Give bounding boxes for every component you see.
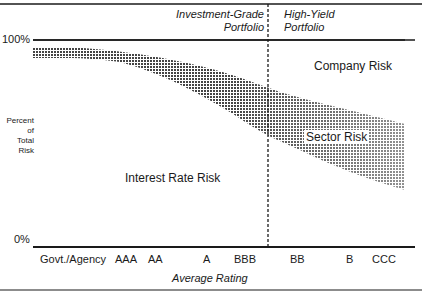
y-axis-title-line2: of bbox=[0, 126, 34, 136]
interest-rate-risk-label: Interest Rate Risk bbox=[125, 171, 220, 185]
high-yield-label: High-Yield Portfolio bbox=[284, 8, 335, 34]
x-tick-bb: BB bbox=[290, 253, 305, 265]
high-yield-line1: High-Yield bbox=[284, 8, 335, 21]
high-yield-line2: Portfolio bbox=[284, 21, 335, 34]
x-axis-title: Average Rating bbox=[172, 272, 248, 285]
investment-grade-line2: Portfolio bbox=[168, 21, 264, 34]
x-tick-aaa: AAA bbox=[115, 253, 137, 265]
x-tick-ccc: CCC bbox=[372, 253, 396, 265]
y-tick-100: 100% bbox=[2, 33, 30, 46]
chart-canvas bbox=[0, 0, 422, 292]
x-tick-aa: AA bbox=[148, 253, 163, 265]
sector-risk-label: Sector Risk bbox=[304, 130, 369, 144]
y-tick-0: 0% bbox=[14, 233, 30, 246]
y-axis-title-line4: Risk bbox=[0, 146, 34, 156]
company-risk-label: Company Risk bbox=[314, 59, 392, 73]
y-axis-title: Percent of Total Risk bbox=[0, 116, 34, 156]
x-tick-a: A bbox=[203, 253, 210, 265]
investment-grade-label: Investment-Grade Portfolio bbox=[168, 8, 264, 34]
x-tick-govt-agency: Govt./Agency bbox=[40, 253, 106, 265]
x-tick-b: B bbox=[346, 253, 353, 265]
x-tick-bbb: BBB bbox=[234, 253, 256, 265]
investment-grade-line1: Investment-Grade bbox=[168, 8, 264, 21]
y-axis-title-line1: Percent bbox=[0, 116, 34, 126]
y-axis-title-line3: Total bbox=[0, 136, 34, 146]
